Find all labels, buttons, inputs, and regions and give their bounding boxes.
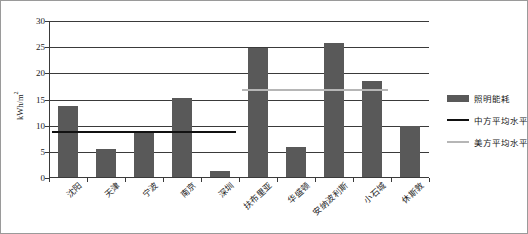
legend-item[interactable]: 中方平均水平: [447, 109, 525, 131]
y-axis-tick-mark: [45, 21, 49, 22]
bar: [172, 98, 192, 177]
x-axis-tick-label: 小石城: [360, 179, 388, 206]
legend-label: 美方平均水平: [474, 136, 527, 148]
y-axis-tick-label: 15: [36, 95, 45, 105]
bar-chart: kWh/m2 051015202530 沈阳天津宁波南京深圳扶布里亚华盛顿安纳波…: [0, 0, 528, 234]
y-axis-title-superscript: 2: [13, 92, 19, 95]
legend-marker-icon: [447, 95, 469, 102]
legend-label: 中方平均水平: [474, 114, 527, 126]
x-axis-tick-label: 扶布里亚: [240, 179, 274, 211]
x-axis-tick-label: 沈阳: [63, 179, 84, 200]
legend-marker-icon: [447, 119, 469, 121]
legend-swatch: [447, 95, 469, 102]
y-axis-title: kWh/m2: [9, 71, 23, 141]
plot-area: 051015202530: [49, 21, 429, 178]
y-axis-tick-label: 20: [36, 68, 45, 78]
x-axis-tick-labels: 沈阳天津宁波南京深圳扶布里亚华盛顿安纳波利斯小石城休斯敦: [49, 179, 429, 234]
x-axis-tick-label: 宁波: [139, 179, 160, 200]
bar: [286, 147, 306, 177]
bar: [324, 43, 344, 177]
reference-line: [52, 131, 236, 133]
y-axis-tick-mark: [45, 126, 49, 127]
x-axis-tick-label: 华盛顿: [284, 179, 312, 206]
y-axis-tick-mark: [45, 47, 49, 48]
y-axis-tick-label: 25: [36, 42, 45, 52]
bar: [58, 106, 78, 177]
gridline: [49, 73, 429, 74]
gridline: [49, 47, 429, 48]
x-axis-tick-label: 安纳波利斯: [309, 179, 350, 217]
legend-label: 照明能耗: [474, 92, 510, 104]
legend-swatch: [447, 141, 469, 143]
gridline: [49, 21, 429, 22]
y-axis-tick-mark: [45, 73, 49, 74]
y-axis-tick-label: 30: [36, 16, 45, 26]
legend-marker-icon: [447, 141, 469, 143]
x-axis-tick-label: 南京: [177, 179, 198, 200]
y-axis-tick-mark: [45, 100, 49, 101]
bar: [248, 48, 268, 177]
x-axis-tick-mark: [429, 178, 430, 182]
y-axis-tick-mark: [45, 152, 49, 153]
reference-line: [242, 89, 388, 91]
x-axis-tick-label: 休斯敦: [398, 179, 426, 206]
y-axis-tick-label: 10: [36, 121, 45, 131]
bar: [96, 149, 116, 177]
legend-item[interactable]: 照明能耗: [447, 87, 525, 109]
bar: [134, 133, 154, 177]
legend-swatch: [447, 119, 469, 121]
y-axis-title-text: kWh/m: [15, 95, 25, 121]
x-axis-tick-label: 天津: [101, 179, 122, 200]
x-axis-tick-label: 深圳: [215, 179, 236, 200]
bar: [210, 171, 230, 177]
bar: [362, 81, 382, 177]
chart-legend: 照明能耗中方平均水平美方平均水平: [447, 87, 525, 153]
legend-item[interactable]: 美方平均水平: [447, 131, 525, 153]
bar: [400, 126, 420, 177]
